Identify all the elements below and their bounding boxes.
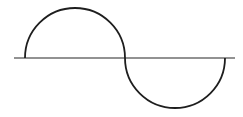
diagram-canvas [0,0,243,117]
wave-diagram [0,0,243,117]
